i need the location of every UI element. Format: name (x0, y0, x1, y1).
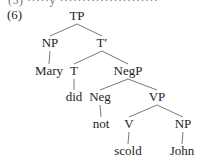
tree-node-np1: NP (42, 35, 59, 50)
tree-node-neg: Neg (89, 89, 111, 104)
tree-node-tp: TP (69, 8, 84, 23)
tree-node-np2: NP (175, 116, 192, 131)
tree-node-v: V (124, 116, 134, 131)
tree-node-scold: scold (114, 143, 142, 158)
tree-node-vp: VP (149, 89, 166, 104)
tree-edges (49, 24, 183, 144)
tree-node-mary: Mary (35, 63, 64, 78)
tree-node-john: John (170, 143, 195, 158)
tree-node-t: T (70, 63, 78, 78)
tree-node-tbar: T′ (97, 35, 108, 50)
tree-node-did: did (66, 89, 83, 104)
tree-nodes: TPNPT′MaryTNegPdidNegVPnotVNPscoldJohn (35, 8, 195, 158)
tree-node-negp: NegP (114, 63, 143, 78)
tree-node-not: not (93, 116, 110, 131)
tree-branch (74, 51, 102, 64)
syntax-tree: TPNPT′MaryTNegPdidNegVPnotVNPscoldJohn (0, 0, 203, 166)
